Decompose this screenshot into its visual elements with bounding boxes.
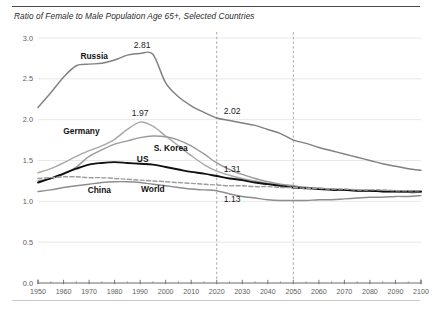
series-label-germany: Germany — [63, 126, 100, 136]
x-axis-tick-label: 1950 — [30, 288, 46, 296]
line-chart-svg: 0.00.51.01.52.02.53.01950196019701980199… — [0, 0, 432, 309]
y-axis-tick-label: 1.5 — [23, 156, 33, 165]
y-axis-tick-label: 2.0 — [23, 115, 33, 124]
value-annotation-2-81: 2.81 — [134, 40, 151, 50]
value-annotation-1-31: 1.31 — [224, 164, 241, 174]
x-axis-tick-label: 2030 — [234, 288, 250, 296]
y-axis-tick-label: 1.0 — [23, 197, 33, 206]
x-axis-tick-label: 2010 — [183, 288, 199, 296]
x-axis-tick-label: 2090 — [388, 288, 404, 296]
chart-page: Ratio of Female to Male Population Age 6… — [0, 0, 432, 309]
series-label-us: US — [137, 154, 149, 164]
series-label-russia: Russia — [80, 51, 108, 61]
value-annotation-2-02: 2.02 — [224, 106, 241, 116]
x-axis-tick-label: 2080 — [362, 288, 378, 296]
y-axis-tick-label: 0.5 — [23, 238, 33, 247]
series-label-world: World — [141, 184, 165, 194]
value-annotation-1-13: 1.13 — [224, 194, 241, 204]
x-axis-tick-label: 2100 — [413, 288, 429, 296]
x-axis-tick-label: 2050 — [285, 288, 301, 296]
y-axis-tick-label: 3.0 — [23, 34, 33, 43]
x-axis-tick-label: 1960 — [56, 288, 72, 296]
series-label-china: China — [88, 185, 112, 195]
chart-plot-area: 0.00.51.01.52.02.53.01950196019701980199… — [0, 0, 432, 309]
x-axis-tick-label: 1990 — [132, 288, 148, 296]
x-axis-tick-label: 2070 — [337, 288, 353, 296]
x-axis-tick-label: 2020 — [209, 288, 225, 296]
x-axis-tick-label: 2000 — [158, 288, 174, 296]
y-axis-tick-label: 0.0 — [23, 279, 33, 288]
value-annotation-1-97: 1.97 — [132, 108, 149, 118]
bottom-divider — [12, 300, 420, 301]
x-axis-tick-label: 2040 — [260, 288, 276, 296]
x-axis-tick-label: 2060 — [311, 288, 327, 296]
y-axis-tick-label: 2.5 — [23, 74, 33, 83]
x-axis-tick-label: 1970 — [81, 288, 97, 296]
x-axis-tick-label: 1980 — [107, 288, 123, 296]
series-label-s-korea: S. Korea — [154, 143, 188, 153]
